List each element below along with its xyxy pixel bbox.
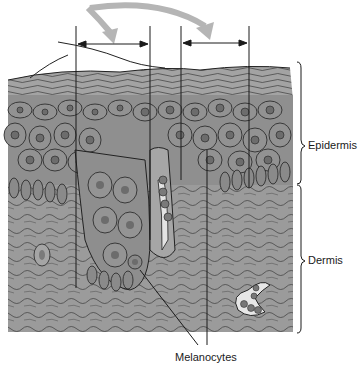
epidermis-brace: [297, 62, 305, 184]
dermal-structure-left: [34, 244, 50, 266]
skin-diagram: Epidermis Dermis Melanocytes: [0, 0, 363, 372]
melanocytes-label: Melanocytes: [175, 351, 237, 363]
curved-arrow: [88, 5, 214, 44]
width-arrows: [78, 40, 247, 47]
dermis-label: Dermis: [308, 254, 343, 266]
epidermis-label: Epidermis: [308, 139, 357, 151]
dermis-brace: [297, 185, 305, 333]
skin-illustration: [0, 0, 363, 372]
